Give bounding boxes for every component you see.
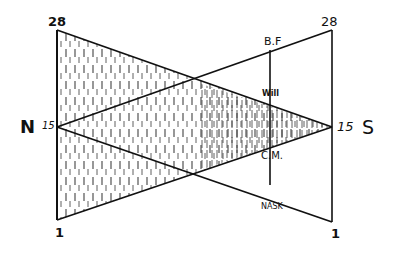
- cm-label: C.M.: [261, 151, 283, 161]
- pole-s-label: S: [362, 118, 374, 137]
- pole-n-label: N: [20, 118, 35, 136]
- right-top-label: 28: [321, 15, 338, 28]
- left-middle-label: 15: [42, 121, 55, 131]
- right-bottom-label: 1: [331, 227, 340, 240]
- nask-label: NASK: [261, 203, 283, 211]
- diagram-lines: [0, 0, 394, 256]
- diagram: 28 1 15 N 28 1 15 S B.F Will C.M. NASK: [0, 0, 394, 256]
- bf-label: B.F: [264, 36, 281, 47]
- left-top-label: 28: [48, 15, 66, 28]
- will-label: Will: [262, 90, 279, 98]
- right-middle-label: 15: [337, 120, 354, 133]
- left-bottom-label: 1: [55, 226, 64, 239]
